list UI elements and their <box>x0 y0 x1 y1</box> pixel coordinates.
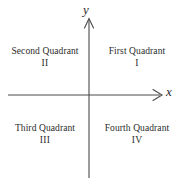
x-axis-label: x <box>166 85 172 98</box>
quadrant-second-name: Second Quadrant <box>2 45 88 57</box>
coordinate-plane-figure: y x Second Quadrant II First Quadrant I … <box>0 0 180 184</box>
quadrant-second-numeral: II <box>2 57 88 70</box>
quadrant-fourth-name: Fourth Quadrant <box>94 122 180 134</box>
quadrant-first-name: First Quadrant <box>94 45 180 57</box>
quadrant-fourth: Fourth Quadrant IV <box>94 122 180 147</box>
quadrant-third-name: Third Quadrant <box>2 122 88 134</box>
quadrant-first-numeral: I <box>94 57 180 70</box>
quadrant-first: First Quadrant I <box>94 45 180 70</box>
quadrant-third: Third Quadrant III <box>2 122 88 147</box>
quadrant-second: Second Quadrant II <box>2 45 88 70</box>
axes-graphic <box>0 0 180 184</box>
quadrant-fourth-numeral: IV <box>94 134 180 147</box>
y-axis-label: y <box>83 3 89 16</box>
quadrant-third-numeral: III <box>2 134 88 147</box>
